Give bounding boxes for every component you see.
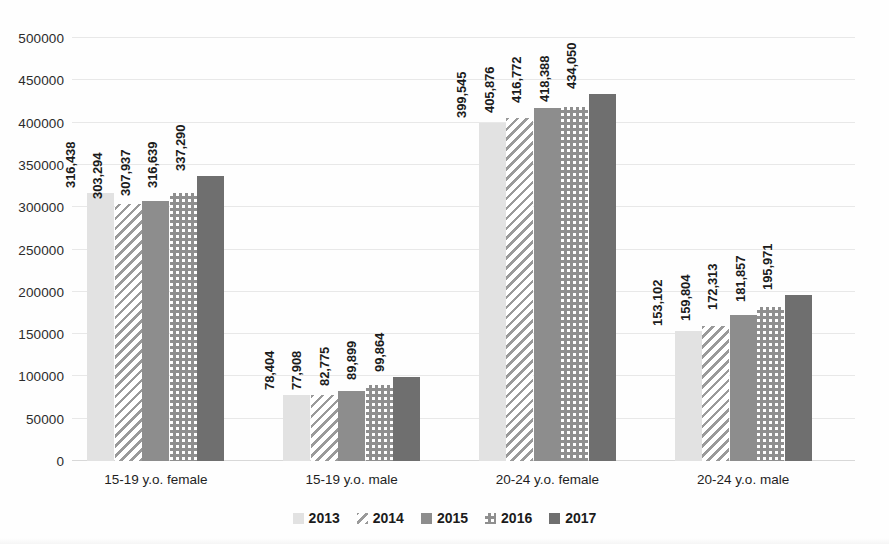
y-tick-label: 500000 (18, 31, 64, 46)
bar-item[interactable]: 434,050 (589, 38, 616, 461)
bar-item[interactable]: 82,775 (338, 38, 365, 461)
legend-swatch-icon (357, 513, 368, 524)
bar[interactable]: 316,438 (87, 193, 114, 461)
bar-item[interactable]: 172,313 (730, 38, 757, 461)
legend-swatch-icon (549, 513, 560, 524)
bar[interactable]: 337,290 (197, 176, 224, 461)
x-category-label: 20-24 y.o. male (697, 472, 789, 487)
bar[interactable]: 307,937 (142, 201, 169, 462)
bar-value-label: 153,102 (650, 280, 665, 326)
bar-value-label: 99,864 (372, 332, 387, 371)
bar-group: 399,545405,876416,772418,388434,050 (464, 38, 660, 461)
bar[interactable]: 99,864 (393, 377, 420, 461)
bar[interactable]: 434,050 (589, 94, 616, 461)
y-tick-label: 450000 (18, 73, 64, 88)
bar-item[interactable]: 307,937 (142, 38, 169, 461)
bar-value-label: 337,290 (173, 124, 188, 170)
bar[interactable]: 316,639 (170, 193, 197, 461)
bar-value-label: 316,438 (63, 142, 78, 188)
bar-value-label: 399,545 (454, 72, 469, 118)
bar-item[interactable]: 418,388 (561, 38, 588, 461)
bar[interactable]: 153,102 (675, 331, 702, 461)
bar[interactable]: 303,294 (115, 204, 142, 461)
y-tick-label: 300000 (18, 200, 64, 215)
x-category-label: 20-24 y.o. female (496, 472, 599, 487)
bar-value-label: 418,388 (537, 56, 552, 102)
bar[interactable]: 172,313 (730, 315, 757, 461)
bar-item[interactable]: 99,864 (393, 38, 420, 461)
bar-value-label: 159,804 (677, 275, 692, 321)
bar-value-label: 82,775 (317, 347, 332, 386)
legend-swatch-icon (485, 513, 496, 524)
legend-item[interactable]: 2014 (357, 510, 404, 526)
x-category-label: 15-19 y.o. male (306, 472, 398, 487)
bar[interactable]: 195,971 (785, 295, 812, 461)
bar-value-label: 77,908 (290, 351, 305, 390)
bar-group: 78,40477,90882,77589,89999,864 (268, 38, 464, 461)
y-tick-label: 200000 (18, 284, 64, 299)
bar-value-label: 434,050 (564, 43, 579, 89)
plot-area: 316,438303,294307,937316,639337,29078,40… (72, 38, 855, 461)
bar[interactable]: 399,545 (479, 123, 506, 461)
y-tick-label: 50000 (26, 411, 64, 426)
bar-item[interactable]: 337,290 (197, 38, 224, 461)
legend-swatch-icon (293, 513, 304, 524)
bar-item[interactable]: 195,971 (785, 38, 812, 461)
bar-group: 316,438303,294307,937316,639337,290 (72, 38, 268, 461)
bar[interactable]: 416,772 (534, 108, 561, 461)
y-tick-label: 100000 (18, 369, 64, 384)
bar-value-label: 316,639 (145, 142, 160, 188)
bar[interactable]: 159,804 (702, 326, 729, 461)
y-axis: 0500001000001500002000002500003000003500… (0, 38, 64, 461)
bar[interactable]: 77,908 (311, 395, 338, 461)
legend-swatch-icon (421, 513, 432, 524)
bar-item[interactable]: 316,639 (170, 38, 197, 461)
bar-item[interactable]: 78,404 (283, 38, 310, 461)
bar[interactable]: 82,775 (338, 391, 365, 461)
legend-item[interactable]: 2015 (421, 510, 468, 526)
bar[interactable]: 78,404 (283, 395, 310, 461)
bar[interactable]: 405,876 (506, 118, 533, 461)
page-edge-artifact (0, 538, 889, 544)
y-tick-label: 0 (56, 454, 64, 469)
bar-value-label: 172,313 (705, 264, 720, 310)
bar-group: 153,102159,804172,313181,857195,971 (659, 38, 855, 461)
bar-value-label: 181,857 (732, 256, 747, 302)
legend-label: 2015 (437, 510, 468, 526)
legend-label: 2013 (309, 510, 340, 526)
bar-value-label: 78,404 (262, 351, 277, 390)
bar-item[interactable]: 159,804 (702, 38, 729, 461)
bar-value-label: 303,294 (90, 153, 105, 199)
y-tick-label: 150000 (18, 327, 64, 342)
x-category-label: 15-19 y.o. female (104, 472, 207, 487)
bar-item[interactable]: 153,102 (675, 38, 702, 461)
bar-value-label: 89,899 (345, 341, 360, 380)
bar-chart: 0500001000001500002000002500003000003500… (0, 0, 889, 544)
legend-label: 2014 (373, 510, 404, 526)
legend-label: 2017 (565, 510, 596, 526)
legend-item[interactable]: 2017 (549, 510, 596, 526)
bar[interactable]: 89,899 (366, 385, 393, 461)
bar-item[interactable]: 303,294 (115, 38, 142, 461)
bar-item[interactable]: 89,899 (366, 38, 393, 461)
y-tick-label: 350000 (18, 157, 64, 172)
bar[interactable]: 418,388 (561, 107, 588, 461)
bar-item[interactable]: 316,438 (87, 38, 114, 461)
y-tick-label: 400000 (18, 115, 64, 130)
legend-item[interactable]: 2016 (485, 510, 532, 526)
bar-value-label: 195,971 (760, 244, 775, 290)
bar[interactable]: 181,857 (757, 307, 784, 461)
bar-value-label: 405,876 (482, 66, 497, 112)
chart-legend: 20132014201520162017 (0, 510, 889, 526)
bar-value-label: 416,772 (509, 57, 524, 103)
bar-item[interactable]: 77,908 (311, 38, 338, 461)
legend-item[interactable]: 2013 (293, 510, 340, 526)
y-tick-label: 250000 (18, 242, 64, 257)
bar-value-label: 307,937 (118, 149, 133, 195)
x-axis: 15-19 y.o. female15-19 y.o. male20-24 y.… (72, 472, 855, 498)
legend-label: 2016 (501, 510, 532, 526)
